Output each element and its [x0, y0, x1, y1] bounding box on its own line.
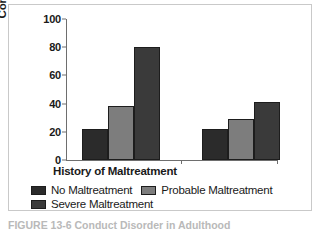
legend-label: Severe Maltreatment: [51, 197, 153, 211]
legend-row: Severe Maltreatment: [31, 197, 299, 211]
y-axis-tick-mark: [62, 103, 66, 104]
bar: [254, 102, 280, 160]
y-axis-tick-label: 0: [27, 155, 66, 166]
chart-legend: No MaltreatmentProbable MaltreatmentSeve…: [31, 183, 299, 211]
y-axis-tick-label: 100: [27, 14, 66, 25]
bar: [202, 129, 228, 160]
figure-frame: Conduct Disorder in Adulthood 1008060402…: [8, 4, 312, 211]
y-axis-title-line-2: Adulthood: [10, 0, 24, 23]
legend-item[interactable]: No Maltreatment: [31, 183, 132, 197]
y-axis-tick-mark: [62, 131, 66, 132]
y-axis-tick-label: 80: [27, 42, 66, 53]
y-axis-tick-label: 40: [27, 98, 66, 109]
legend-label: Probable Maltreatment: [161, 183, 272, 197]
y-axis-tick-mark: [62, 160, 66, 161]
legend-swatch-icon: [31, 200, 46, 209]
y-axis-tick-mark: [62, 47, 66, 48]
y-axis-tick-label: 60: [27, 70, 66, 81]
legend-item[interactable]: Severe Maltreatment: [31, 197, 153, 211]
y-axis-line: [66, 19, 67, 161]
y-axis-tick-label: 20: [27, 126, 66, 137]
legend-swatch-icon: [141, 186, 156, 195]
legend-swatch-icon: [31, 186, 46, 195]
x-axis-title: History of Maltreatment: [9, 165, 221, 177]
bar: [228, 119, 254, 160]
bar: [82, 129, 108, 160]
legend-item[interactable]: Probable Maltreatment: [141, 183, 272, 197]
y-axis-tick-mark: [62, 75, 66, 76]
plot-area: 100806040200: [66, 19, 278, 161]
y-axis-tick-mark: [62, 19, 66, 20]
bar: [108, 106, 134, 160]
x-axis-tick-mark: [181, 160, 182, 164]
bar: [134, 47, 160, 160]
y-axis-title: Conduct Disorder in Adulthood: [0, 0, 23, 23]
legend-label: No Maltreatment: [51, 183, 132, 197]
x-axis-line: [66, 160, 278, 161]
y-axis-title-line-1: Conduct Disorder in: [0, 0, 10, 23]
legend-row: No MaltreatmentProbable Maltreatment: [31, 183, 299, 197]
x-axis-tick-mark: [277, 160, 278, 164]
figure-caption: FIGURE 13-6 Conduct Disorder in Adulthoo…: [8, 219, 318, 229]
